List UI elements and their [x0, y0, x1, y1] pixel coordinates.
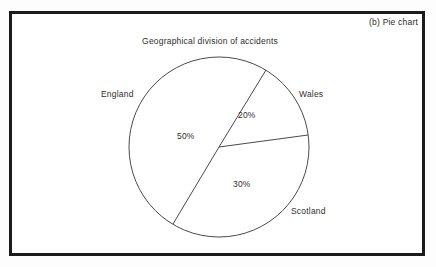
divider-england-wales [219, 70, 266, 147]
divider-wales-scotland [219, 135, 308, 147]
panel-caption: (b) Pie chart [369, 17, 418, 27]
divider-scotland-england [173, 147, 219, 224]
slice-label-england: England [101, 89, 134, 99]
chart-title: Geographical division of accidents [142, 36, 278, 46]
slice-value-wales: 20% [238, 110, 256, 120]
slice-label-wales: Wales [299, 89, 323, 99]
figure-root: (b) Pie chart Geographical division of a… [0, 0, 436, 267]
slice-value-scotland: 30% [233, 179, 251, 189]
slice-value-england: 50% [177, 131, 195, 141]
slice-label-scotland: Scotland [291, 206, 326, 216]
